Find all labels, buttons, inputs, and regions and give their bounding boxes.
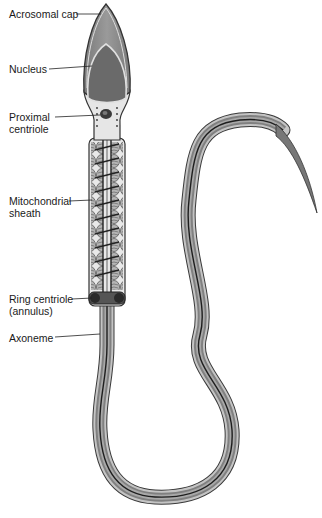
head [84,4,130,103]
label-text: Axoneme [9,332,53,344]
label-text-line2: centriole [9,123,50,135]
tail [100,119,317,497]
label-text: Mitochondrial [9,195,71,207]
label-text-line2: sheath [9,207,71,219]
label-text: Acrosomal cap [9,8,78,20]
label-mitochondrial-sheath: Mitochondrial sheath [9,195,71,219]
label-nucleus: Nucleus [9,63,47,75]
label-proximal-centriole: Proximal centriole [9,111,50,135]
label-ring-centriole: Ring centriole (annulus) [9,293,73,317]
label-axoneme: Axoneme [9,332,53,344]
label-acrosomal-cap: Acrosomal cap [9,8,78,20]
sperm-illustration [0,0,322,518]
midpiece [89,128,125,306]
label-text-line2: (annulus) [9,305,73,317]
sperm-diagram: Acrosomal cap Nucleus Proximal centriole… [0,0,322,518]
label-text: Nucleus [9,63,47,75]
label-text: Proximal [9,111,50,123]
label-text: Ring centriole [9,293,73,305]
